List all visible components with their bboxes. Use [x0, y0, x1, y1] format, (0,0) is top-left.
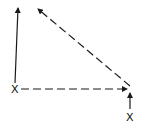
left-x-label: X — [11, 84, 19, 95]
dashed-diagonal-arrow — [38, 9, 130, 86]
vector-diagram — [0, 0, 144, 128]
solid-up-arrow — [15, 8, 18, 83]
right-x-label: X — [126, 112, 134, 123]
